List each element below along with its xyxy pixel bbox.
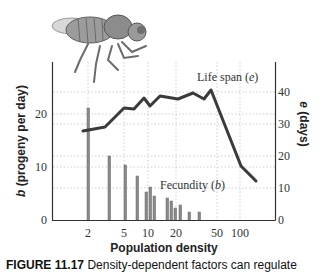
bar xyxy=(87,108,90,220)
fecundity-bars xyxy=(87,108,201,220)
figure-chart: 2 5 10 20 50 100 0 10 20 0 10 20 30 40 b… xyxy=(0,0,327,272)
x-tick-labels: 2 5 10 20 50 100 xyxy=(85,226,249,240)
fruit-fly-illustration xyxy=(52,15,146,82)
x-tick: 2 xyxy=(85,226,91,240)
bar xyxy=(145,192,148,220)
x-axis-label: Population density xyxy=(110,241,218,255)
x-tick: 100 xyxy=(231,226,249,240)
bar xyxy=(108,156,111,220)
left-tick: 20 xyxy=(35,107,47,121)
bar xyxy=(174,208,177,220)
left-tick: 10 xyxy=(35,160,47,174)
right-tick: 0 xyxy=(278,213,284,227)
y-right-axis-label: e (days) xyxy=(297,101,311,146)
left-tick: 0 xyxy=(41,213,47,227)
x-tick: 5 xyxy=(121,226,127,240)
right-tick-labels: 0 10 20 30 40 xyxy=(278,85,290,227)
axes xyxy=(52,62,276,221)
figure-caption: FIGURE 11.17 Density-dependent factors c… xyxy=(6,258,297,272)
x-tick: 20 xyxy=(170,226,182,240)
left-tick-labels: 0 10 20 xyxy=(35,107,47,227)
right-tick: 30 xyxy=(278,117,290,131)
bar xyxy=(198,212,201,220)
x-tick: 50 xyxy=(211,226,223,240)
bar xyxy=(188,212,191,220)
bar xyxy=(124,165,127,220)
bar xyxy=(149,187,152,220)
x-tick: 10 xyxy=(142,226,154,240)
right-tick: 40 xyxy=(278,85,290,99)
caption-text: Density-dependent factors can regulate xyxy=(84,258,297,272)
y-left-axis-label: b (progeny per day) xyxy=(14,85,28,197)
right-tick: 10 xyxy=(278,181,290,195)
bar xyxy=(166,198,169,220)
bar xyxy=(153,196,156,220)
bar xyxy=(136,176,139,220)
figure-number: FIGURE 11.17 xyxy=(6,258,84,272)
fecundity-annotation: Fecundity (b) xyxy=(160,178,225,192)
lifespan-annotation: Life span (e) xyxy=(197,70,258,84)
bar xyxy=(170,201,173,220)
right-tick: 20 xyxy=(278,149,290,163)
bar xyxy=(179,205,182,220)
gridlines xyxy=(53,62,275,220)
